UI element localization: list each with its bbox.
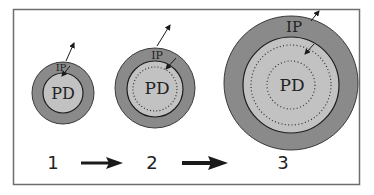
growth-diagram: IP PD IP PD IP PD 1 2 3 xyxy=(0,0,374,195)
ip-label: IP xyxy=(151,49,163,62)
pd-label: PD xyxy=(144,78,169,98)
stage-number-2: 2 xyxy=(146,152,157,173)
pd-label: PD xyxy=(279,75,304,95)
pd-label: PD xyxy=(51,84,75,103)
ip-label: IP xyxy=(56,62,67,73)
stage-number-3: 3 xyxy=(277,152,288,173)
ip-label: IP xyxy=(286,18,302,36)
stage-number-1: 1 xyxy=(47,152,58,173)
